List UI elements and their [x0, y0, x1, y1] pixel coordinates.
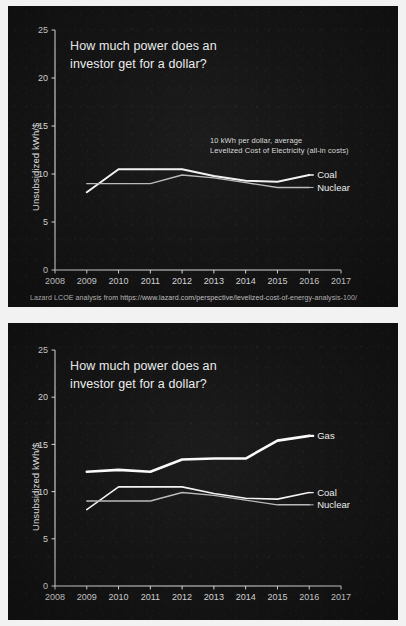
series-label-coal: Coal: [317, 169, 337, 180]
x-tick-label: 2015: [267, 592, 287, 602]
x-tick-label: 2010: [109, 276, 129, 286]
x-tick-label: 2017: [331, 592, 351, 602]
x-tick-label: 2015: [267, 276, 287, 286]
x-tick-label: 2014: [236, 276, 256, 286]
slide-photo-page: 0510152025200820092010201120122013201420…: [0, 0, 406, 626]
chart-annotation-lcoe: Levelized Cost of Electricity (all-in co…: [210, 146, 349, 156]
chart-headline-bottom-line1: How much power does an: [70, 358, 217, 374]
chart-headline-top-line1: How much power does an: [70, 38, 217, 54]
chart-headline-bottom-line2: investor get for a dollar?: [70, 376, 207, 392]
y-tick-label: 5: [43, 534, 48, 544]
x-tick-label: 2009: [77, 592, 97, 602]
x-tick-label: 2013: [204, 592, 224, 602]
series-line-coal: [87, 487, 309, 510]
x-tick-label: 2013: [204, 276, 224, 286]
y-tick-label: 0: [43, 581, 48, 591]
series-line-gas: [87, 436, 309, 472]
x-tick-label: 2008: [45, 592, 65, 602]
x-tick-label: 2017: [331, 276, 351, 286]
y-tick-label: 20: [38, 392, 48, 402]
source-note: Lazard LCOE analysis from https://www.la…: [30, 294, 357, 301]
series-label-gas: Gas: [317, 430, 335, 441]
y-tick-label: 25: [38, 345, 48, 355]
chart-panel-top: 0510152025200820092010201120122013201420…: [8, 6, 398, 307]
series-label-nuclear: Nuclear: [317, 182, 350, 193]
y-tick-label: 5: [43, 217, 48, 227]
chart-headline-top-line2: investor get for a dollar?: [70, 56, 207, 72]
series-label-coal: Coal: [317, 487, 337, 498]
chart-annotation-avg: 10 kWh per dollar, average: [210, 136, 302, 146]
y-tick-label: 25: [38, 25, 48, 35]
x-tick-label: 2011: [141, 276, 160, 286]
x-tick-label: 2012: [172, 592, 192, 602]
y-tick-label: 20: [38, 73, 48, 83]
chart-panel-bottom: 0510152025200820092010201120122013201420…: [8, 323, 398, 620]
series-label-nuclear: Nuclear: [317, 499, 350, 510]
y-axis-title-top: Unsubsidized kWh/$: [30, 123, 41, 211]
x-tick-label: 2016: [299, 592, 319, 602]
series-line-coal: [87, 169, 309, 192]
x-tick-label: 2009: [77, 276, 97, 286]
x-tick-label: 2014: [236, 592, 256, 602]
x-tick-label: 2016: [299, 276, 319, 286]
x-tick-label: 2010: [109, 592, 129, 602]
y-tick-label: 0: [43, 265, 48, 275]
x-tick-label: 2008: [45, 276, 65, 286]
x-tick-label: 2011: [141, 592, 160, 602]
y-axis-title-bottom: Unsubsidized kWh/$: [30, 443, 41, 531]
x-tick-label: 2012: [172, 276, 192, 286]
